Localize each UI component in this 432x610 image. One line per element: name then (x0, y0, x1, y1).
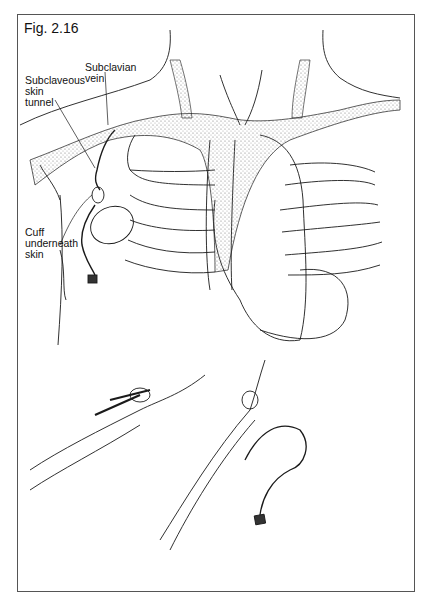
right-shoulder-outline (323, 30, 400, 98)
figure-title: Fig. 2.16 (24, 20, 78, 36)
subclavian-vein-stipple (30, 100, 400, 272)
label-cuff-underneath-skin: Cuff underneath skin (25, 227, 78, 260)
label-subclavian-vein: Subclavian vein (85, 62, 136, 84)
label-subclaveous-skin-tunnel: Subclaveous skin tunnel (25, 75, 85, 108)
jugular-vein-right (292, 60, 310, 118)
jugular-vein-left (170, 60, 192, 118)
